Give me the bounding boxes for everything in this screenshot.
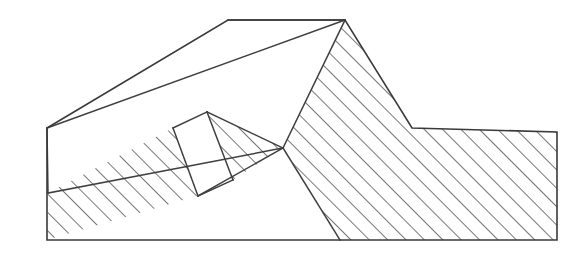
cross-section-drawing <box>0 0 587 268</box>
cross-section-figure <box>0 0 587 268</box>
